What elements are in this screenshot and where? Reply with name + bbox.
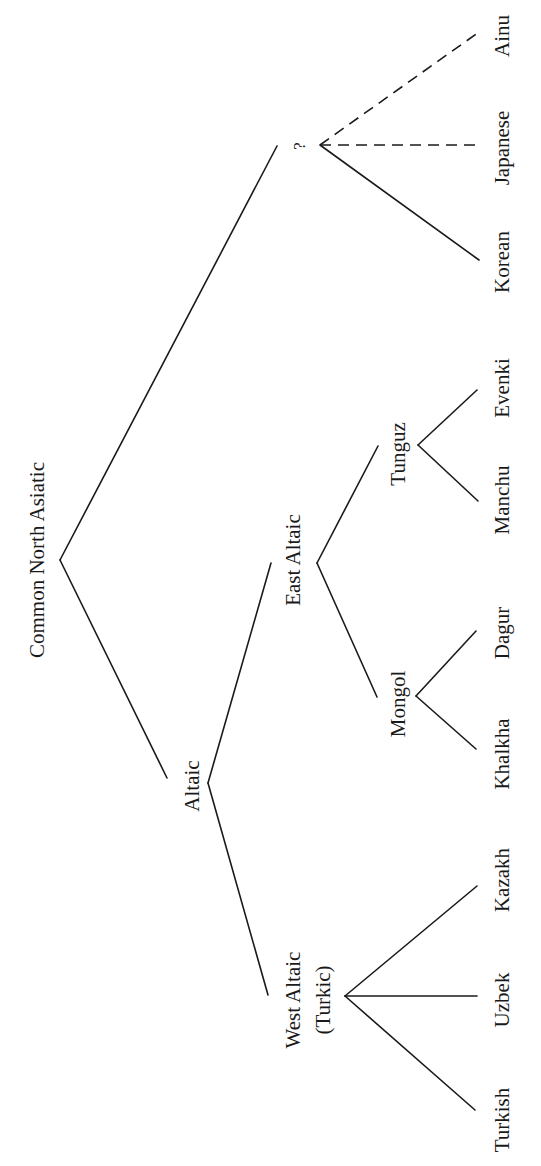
mongol-edges <box>416 631 476 749</box>
leaf-label-korean: Korean <box>490 231 514 293</box>
node-label-altaic: Altaic <box>180 760 204 811</box>
edge-east-altaic-to-mongol <box>317 563 377 697</box>
edge-altaic-to-west-altaic <box>208 783 268 995</box>
leaf-label-turkish: Turkish <box>490 1087 514 1152</box>
edge-root-to-unknown <box>60 146 277 560</box>
edge-root-to-altaic <box>60 560 167 778</box>
leaf-label-khalkha: Khalkha <box>490 718 514 790</box>
west-altaic-edges <box>345 886 477 1110</box>
leaf-label-evenki: Evenki <box>490 358 514 418</box>
leaf-label-kazakh: Kazakh <box>490 847 514 912</box>
edge-mongol-to-khalkha <box>416 696 476 749</box>
edge-west-altaic-to-turkish <box>345 996 475 1110</box>
edge-unknown-to-ainu <box>320 32 479 145</box>
tunguz-edges <box>418 390 478 501</box>
east-altaic-edges <box>317 446 378 697</box>
leaf-label-manchu: Manchu <box>490 465 514 534</box>
node-label-unknown: ? <box>290 142 309 150</box>
node-label-mongol: Mongol <box>386 671 410 738</box>
edge-east-altaic-to-tunguz <box>317 446 378 563</box>
language-tree-diagram: Common North Asiatic ? Altaic East Altai… <box>0 0 541 1166</box>
node-label-tunguz: Tunguz <box>386 422 410 485</box>
node-label-root: Common North Asiatic <box>25 462 49 658</box>
edge-west-altaic-to-kazakh <box>345 886 477 996</box>
leaf-label-ainu: Ainu <box>490 15 514 58</box>
unknown-group-edges <box>320 32 481 260</box>
edge-mongol-to-dagur <box>416 631 476 696</box>
altaic-edges <box>208 563 271 995</box>
node-label-east-altaic: East Altaic <box>281 514 305 606</box>
leaf-label-japanese: Japanese <box>490 111 514 186</box>
node-label-west-altaic-line2: (Turkic) <box>311 965 335 1034</box>
leaf-label-dagur: Dagur <box>490 607 514 659</box>
edge-tunguz-to-manchu <box>418 445 478 501</box>
edge-altaic-to-east-altaic <box>208 563 271 783</box>
leaf-label-uzbek: Uzbek <box>490 972 514 1027</box>
edge-unknown-to-korean <box>320 145 479 260</box>
edge-tunguz-to-evenki <box>418 390 477 445</box>
root-edges <box>60 146 277 778</box>
node-label-west-altaic-line1: West Altaic <box>281 952 305 1049</box>
